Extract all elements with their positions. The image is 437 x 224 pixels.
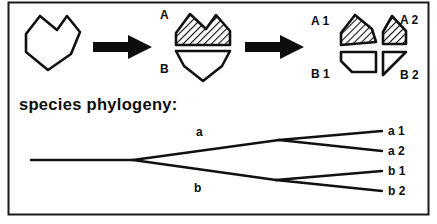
piece-B1-shape (341, 52, 376, 72)
stage3-orthologs-group: A 1 A 2 B 1 B 2 (311, 13, 419, 82)
piece-B-shape (176, 51, 230, 81)
piece-A2-label: A 2 (400, 13, 419, 27)
arrow-duplication-icon (93, 35, 152, 59)
piece-A-label: A (160, 8, 169, 22)
tree-label-a: a (196, 125, 203, 139)
ancestral-shape (26, 16, 80, 70)
piece-B2-label: B 2 (400, 68, 419, 82)
stage2-duplicated-group: A B (160, 8, 230, 81)
tree-branch-b2 (276, 180, 382, 191)
species-phylogeny-tree: a b a 1 a 2 b 1 b 2 (31, 124, 406, 198)
piece-A1-label: A 1 (311, 14, 330, 28)
tree-branch-b (133, 160, 276, 180)
tree-tip-label-a1: a 1 (388, 124, 405, 138)
tree-branch-a1 (279, 131, 382, 140)
piece-A1-shape (341, 15, 376, 45)
page-title: species phylogeny: (19, 95, 178, 113)
tree-tip-label-b1: b 1 (388, 164, 406, 178)
tree-tip-label-b2: b 2 (388, 184, 406, 198)
tree-branch-a (133, 140, 279, 160)
stage1-ancestral-group (26, 16, 80, 70)
piece-B1-label: B 1 (311, 67, 330, 81)
arrow-duplication (93, 35, 152, 59)
piece-A-shape (176, 14, 230, 45)
tree-branch-b1 (276, 171, 382, 180)
figure-canvas: A B A 1 A 2 B 1 B 2 species phylogeny: (0, 0, 437, 224)
arrow-speciation (245, 35, 304, 59)
tree-tip-label-a2: a 2 (388, 144, 405, 158)
figure-container: A B A 1 A 2 B 1 B 2 species phylogeny: (0, 0, 437, 224)
tree-branch-a2 (279, 140, 382, 151)
arrow-speciation-icon (245, 35, 304, 59)
piece-B-label: B (160, 62, 169, 76)
tree-label-b: b (194, 181, 201, 195)
